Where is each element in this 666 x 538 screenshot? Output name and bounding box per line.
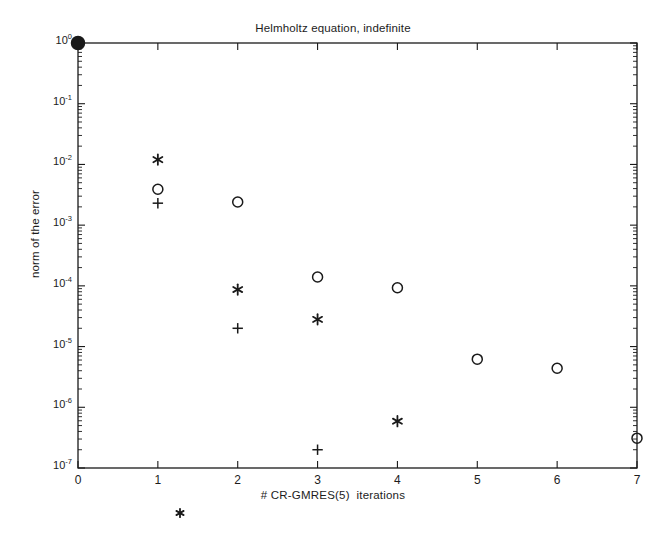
stray-asterisk <box>176 509 183 517</box>
plot-area <box>0 0 666 538</box>
data-point-circle <box>472 354 482 364</box>
axis-box <box>78 43 637 468</box>
scan-artifacts <box>176 509 183 517</box>
x-tick-label: 1 <box>143 473 173 487</box>
axis-ticks <box>78 43 637 468</box>
x-tick-label: 2 <box>223 473 253 487</box>
data-point-circle <box>552 363 562 373</box>
x-tick-label: 3 <box>303 473 333 487</box>
figure-canvas: Helmholtz equation, indefinite norm of t… <box>0 0 666 538</box>
x-tick-label: 7 <box>622 473 652 487</box>
data-point-asterisk <box>153 154 162 164</box>
data-point-circle <box>233 197 243 207</box>
data-point-asterisk <box>233 284 242 294</box>
data-point-asterisk <box>393 416 402 426</box>
data-point-asterisk <box>313 314 322 324</box>
x-tick-label: 4 <box>382 473 412 487</box>
data-point-circle <box>392 283 402 293</box>
data-point-circle <box>313 272 323 282</box>
x-tick-label: 6 <box>542 473 572 487</box>
data-point-plus <box>233 323 243 333</box>
data-point-filled-circle <box>72 37 85 50</box>
data-point-plus <box>153 198 163 208</box>
x-tick-label: 0 <box>63 473 93 487</box>
data-markers <box>72 37 643 455</box>
x-tick-label: 5 <box>462 473 492 487</box>
data-point-plus <box>312 445 322 455</box>
data-point-circle <box>153 184 163 194</box>
